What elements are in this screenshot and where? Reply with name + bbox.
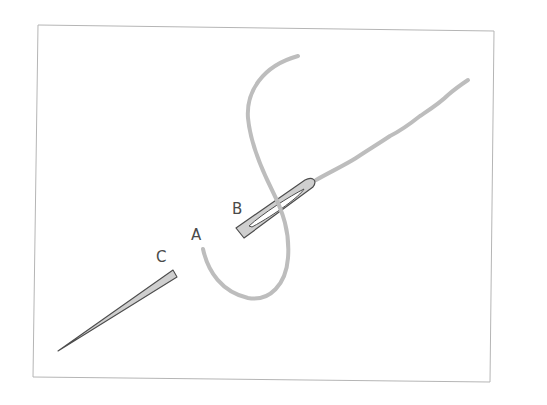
label-c: C: [156, 250, 166, 265]
needle-eye-end: [236, 178, 315, 238]
label-a: A: [191, 228, 201, 243]
thread-loop: [203, 56, 298, 299]
label-b: B: [232, 202, 242, 217]
diagram-frame: [33, 25, 494, 382]
thread-tail: [316, 80, 468, 180]
needle-point-end: [58, 270, 177, 351]
needle-thread-diagram: A B C: [0, 0, 547, 405]
diagram-canvas: [0, 0, 547, 405]
